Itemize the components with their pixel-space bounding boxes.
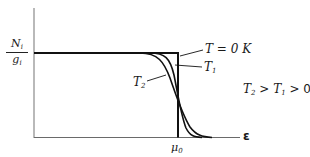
leader-t0 [180, 50, 203, 56]
curve-t0 [34, 53, 178, 138]
label-t2: T2 [133, 76, 145, 90]
mu0-tick-label: μ0 [171, 142, 183, 155]
leader-t1 [175, 65, 202, 67]
fermi-dirac-distribution-diagram [0, 0, 310, 157]
label-t0: T = 0 K [205, 43, 251, 55]
x-axis-label: ε [243, 130, 250, 142]
label-t1: T1 [204, 61, 216, 75]
leader-t2 [147, 75, 166, 81]
temperature-condition: T2 > T1 > 0 [243, 83, 310, 97]
curve-t2 [140, 53, 212, 138]
y-axis-label: Ni gi [6, 38, 28, 67]
